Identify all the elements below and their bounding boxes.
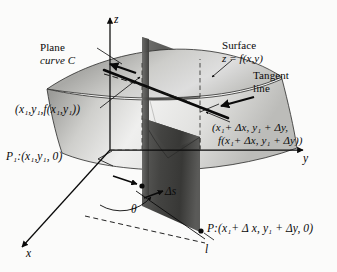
directional-derivative-figure: Plane curve C Surface z = f(x,y) Tangent… <box>0 0 337 272</box>
label-plane-curve: Plane curve C <box>40 41 75 67</box>
plane-curve-line1: Plane <box>40 41 65 53</box>
y-axis-label: y <box>303 152 308 164</box>
upper-right-line2: f(x₁+ Δx, y₁ + Δy)) <box>218 134 303 147</box>
label-delta-s: Δs <box>165 185 176 199</box>
tangent-line2: line <box>253 82 270 94</box>
surface-line1: Surface <box>222 39 256 51</box>
x-axis <box>22 150 110 247</box>
plane-curve-line2: curve C <box>40 54 75 66</box>
label-tangent-line: Tangent line <box>253 69 289 95</box>
label-surface: Surface z = f(x,y) <box>222 39 263 65</box>
label-p1-base: P₁:(x₁,y₁, 0) <box>6 150 62 164</box>
upper-right-line1: (x₁+ Δx, y₁ + Δy, <box>212 121 288 133</box>
cutting-plane-through-surface <box>142 37 149 196</box>
z-axis-label: z <box>114 13 118 25</box>
tangent-line1: Tangent <box>253 69 289 81</box>
label-upper-left-point: (x₁,y₁,f(x₁,y₁)) <box>15 103 80 117</box>
label-upper-right-point: (x₁+ Δx, y₁ + Δy, f(x₁+ Δx, y₁ + Δy)) <box>212 121 303 147</box>
label-theta: θ <box>131 203 137 217</box>
label-p-base: P:(x₁+ Δ x, y₁ + Δy, 0) <box>207 222 313 236</box>
line-l-label: l <box>205 243 208 255</box>
point-P <box>198 228 203 233</box>
surface-line2: z = f(x,y) <box>222 52 263 64</box>
point-P1-projection <box>139 183 144 188</box>
x-axis-label: x <box>26 247 31 259</box>
